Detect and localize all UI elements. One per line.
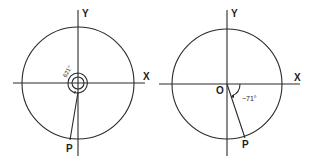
angle-arc [232,84,240,96]
x-axis-label: X [294,72,301,83]
point-label: P [66,143,73,154]
diagram-canvas: X Y P 621° X Y O −71° P [0,0,309,163]
point-label: P [242,139,249,150]
angle-label: 621° [62,64,74,78]
y-axis-label: Y [82,8,89,19]
origin-label: O [216,85,224,96]
figure-right: X Y O −71° P [159,8,301,156]
terminal-ray [70,92,78,140]
terminal-ray [227,84,245,138]
angle-label: −71° [242,95,257,102]
x-axis-label: X [143,71,150,82]
y-axis-label: Y [231,8,238,19]
figure-left: X Y P 621° [13,8,150,156]
